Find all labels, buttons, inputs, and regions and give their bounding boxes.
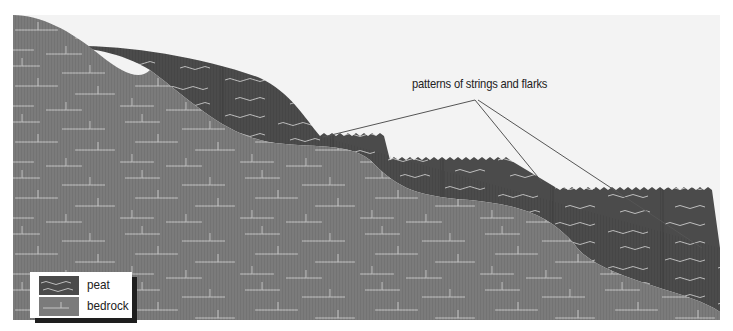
legend: peat bedrock — [30, 272, 132, 318]
annotation-label-strings-and-flarks: patterns of strings and flarks — [412, 76, 547, 91]
legend-label-bedrock: bedrock — [87, 298, 129, 313]
peat-swatch — [39, 276, 79, 295]
legend-label-peat: peat — [87, 277, 110, 292]
legend-item-peat: peat — [39, 276, 129, 295]
legend-item-bedrock: bedrock — [39, 297, 129, 316]
bedrock-swatch — [39, 297, 79, 316]
